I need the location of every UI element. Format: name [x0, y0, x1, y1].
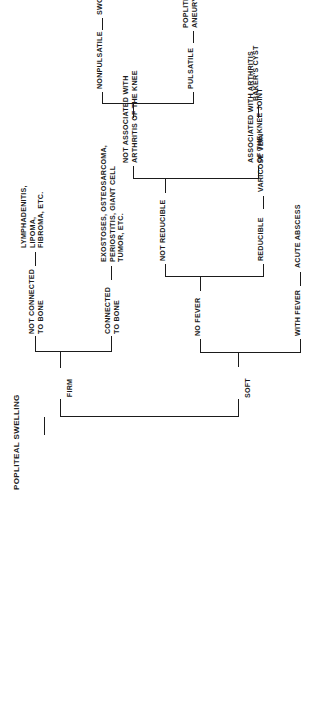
- edge-soft-stem: [238, 353, 239, 367]
- edge-not-reducible-stem: [165, 179, 166, 193]
- edge-associated-arthritis-to-leaf: [258, 105, 259, 118]
- edge-to-pulsatile: [193, 92, 194, 104]
- edge-pulsatility-split: [102, 103, 193, 104]
- edge-no-fever-split: [165, 276, 263, 277]
- edge-reducible-to-leaf: [263, 196, 264, 209]
- edge-not-connected-bone-to-leaf: [35, 252, 36, 266]
- edge-nonpulsatile-to-leaf: [102, 18, 103, 30]
- edge-arthritis-split: [133, 178, 258, 179]
- edge-to-not-connected-bone: [35, 336, 36, 352]
- edge-to-soft: [238, 399, 239, 417]
- node-reducible-label: REDUCIBLE: [257, 195, 266, 261]
- edge-to-no-fever: [200, 339, 201, 353]
- edge-with-fever-to-leaf: [300, 272, 301, 286]
- edge-to-associated-arthritis: [258, 166, 259, 179]
- edge-no-fever-stem: [200, 277, 201, 291]
- edge-to-not-associated-arthritis: [133, 166, 134, 179]
- edge-to-connected-bone: [111, 336, 112, 352]
- edge-to-not-reducible: [165, 264, 166, 277]
- leaf-acute-abscess-label: ACUTE ABSCESS: [294, 178, 303, 268]
- edge-root-split: [60, 416, 238, 417]
- node-root-label: POPLITEAL SWELLING: [13, 394, 22, 490]
- node-with-fever-label: WITH FEVER: [294, 270, 303, 336]
- edge-to-with-fever: [300, 339, 301, 353]
- edge-connected-bone-to-leaf: [111, 266, 112, 280]
- leaf-popliteal-aneurysm-label: POPLITEAL ANEURYSM: [182, 0, 199, 28]
- node-no-fever-label: NO FEVER: [194, 274, 203, 336]
- edge-firm-stem: [60, 352, 61, 368]
- diagram-canvas: POPLITEAL SWELLING FIRM CONNECTED TO BON…: [0, 0, 332, 718]
- edge-not-associated-stem: [133, 104, 134, 118]
- node-not-reducible-label: NOT REDUCIBLE: [159, 179, 168, 261]
- node-soft-label: SOFT: [244, 367, 253, 409]
- edge-to-reducible: [263, 264, 264, 277]
- edge-root-stem: [44, 417, 45, 435]
- edge-firm-split: [35, 351, 111, 352]
- node-nonpulsatile-label: NONPULSATILE: [96, 13, 105, 89]
- node-firm-label: FIRM: [66, 368, 75, 408]
- edge-pulsatile-to-leaf: [193, 31, 194, 43]
- node-pulsatile-label: PULSATILE: [187, 27, 196, 89]
- edge-to-nonpulsatile: [102, 92, 103, 104]
- popliteal-swelling-decision-tree: POPLITEAL SWELLING FIRM CONNECTED TO BON…: [0, 0, 332, 718]
- edge-soft-split: [200, 352, 300, 353]
- node-not-associated-arthritis-label: NOT ASSOCIATED WITH ARTHRITIS OF THE KNE…: [122, 39, 139, 163]
- edge-to-firm: [60, 399, 61, 417]
- leaf-swollen-bursa-label: SWOLLEN BURSA: [96, 0, 105, 15]
- leaf-bakers-cyst-label: BAKER'S CYST: [252, 11, 261, 101]
- leaf-soft-tissue-masses-label: LYMPHADENITIS, LIPOMA, FIBROMA, ETC.: [20, 68, 46, 248]
